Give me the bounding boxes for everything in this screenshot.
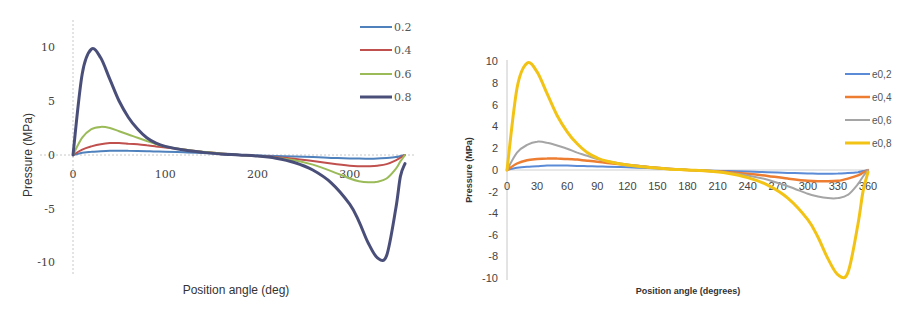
legend-item: e0,4 [845, 92, 892, 103]
legend-label: e0,6 [872, 115, 892, 126]
y-tick-labels: 1086420-2-4-6-8-10 [482, 55, 498, 284]
y-tick-label: 6 [492, 99, 498, 111]
y-tick-labels: 1050-5-10 [37, 41, 55, 269]
legend-item: e0,8 [845, 138, 892, 149]
legend-label: e0,2 [872, 69, 892, 80]
y-tick-label: 4 [492, 120, 498, 132]
series-line-08 [73, 49, 405, 261]
y-tick-label: 10 [41, 41, 55, 54]
legend-label: 0.2 [394, 21, 412, 34]
y-tick-label: 10 [486, 55, 498, 67]
y-tick-label: -4 [488, 207, 498, 219]
x-tick-label: 210 [708, 180, 726, 192]
y-tick-label: 8 [492, 77, 498, 89]
legend-item: 0.4 [360, 44, 412, 57]
x-tick-label: 240 [738, 180, 756, 192]
y-tick-label: -5 [44, 203, 55, 216]
legend-label: e0,4 [872, 92, 892, 103]
series-lines [73, 49, 405, 261]
legend-item: e0,6 [845, 115, 892, 126]
x-tick-label: 180 [678, 180, 696, 192]
y-axis-label: Pressure (MPa) [21, 113, 35, 197]
y-tick-label: 0 [492, 164, 498, 176]
legend: 0.20.40.60.8 [360, 21, 412, 104]
legend: e0,2e0,4e0,6e0,8 [845, 69, 892, 149]
x-tick-label: 60 [561, 180, 573, 192]
y-tick-label: -10 [37, 256, 55, 269]
legend-item: e0,2 [845, 69, 892, 80]
legend-item: 0.2 [360, 21, 412, 34]
y-tick-label: -2 [488, 186, 498, 198]
left-chart: 1050-5-10 0100200300 0.20.40.60.8 Pressu… [21, 20, 415, 297]
legend-item: 0.8 [360, 91, 412, 104]
legend-label: e0,8 [872, 138, 892, 149]
y-tick-label: -8 [488, 250, 498, 262]
y-tick-label: -6 [488, 229, 498, 241]
x-axis-label: Position angle (deg) [183, 283, 290, 297]
y-tick-label: 2 [492, 142, 498, 154]
x-tick-label: 0 [70, 168, 77, 181]
x-tick-label: 360 [859, 180, 877, 192]
x-tick-label: 100 [155, 168, 176, 181]
x-tick-label: 0 [504, 180, 510, 192]
x-tick-label: 30 [531, 180, 543, 192]
y-tick-label: -10 [482, 272, 498, 284]
x-axis-label: Position angle (degrees) [636, 286, 741, 296]
x-tick-label: 120 [618, 180, 636, 192]
legend-label: 0.4 [394, 44, 412, 57]
legend-label: 0.6 [394, 68, 412, 81]
figure: 1050-5-10 0100200300 0.20.40.60.8 Pressu… [0, 0, 912, 316]
legend-label: 0.8 [394, 91, 412, 104]
x-tick-label: 90 [591, 180, 603, 192]
right-chart: 1086420-2-4-6-8-10 030609012015018021024… [464, 55, 892, 296]
legend-item: 0.6 [360, 68, 412, 81]
y-tick-label: 5 [48, 95, 55, 108]
x-tick-labels: 0100200300 [70, 168, 361, 181]
y-tick-label: 0 [48, 149, 55, 162]
x-tick-label: 200 [247, 168, 268, 181]
y-axis-label: Pressure (MPa) [464, 137, 474, 203]
x-tick-label: 150 [648, 180, 666, 192]
